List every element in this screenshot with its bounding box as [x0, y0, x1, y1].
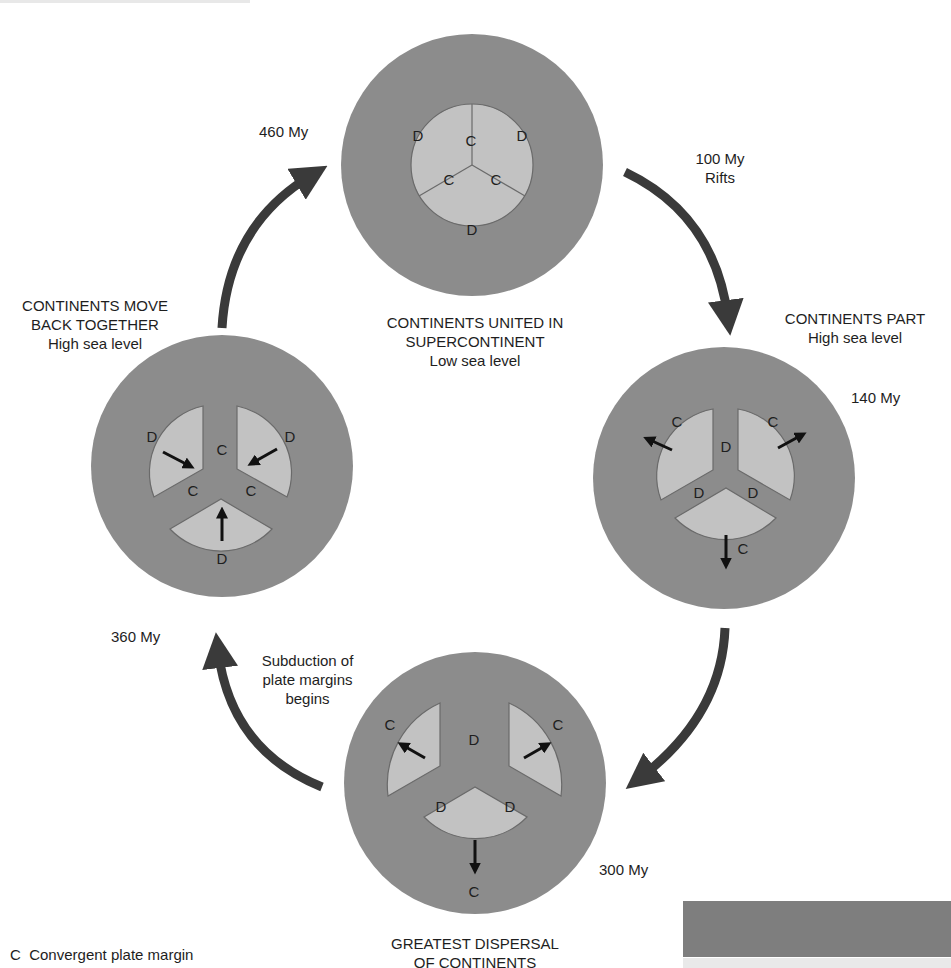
globe-part: C D C D D C [593, 347, 855, 609]
caption-line: High sea level [0, 334, 190, 353]
globe-united: D C D C C D [341, 34, 603, 296]
svg-text:C: C [246, 482, 257, 499]
caption-line: High sea level [750, 328, 951, 347]
legend-text: Convergent plate margin [29, 946, 193, 963]
transition-line: Subduction of [245, 651, 370, 670]
globe-together: D C D C C D [91, 335, 353, 597]
transition-label-rifts: 100 My Rifts [680, 149, 760, 187]
svg-text:D: D [436, 798, 447, 815]
legend-item-convergent: C Convergent plate margin [10, 945, 193, 964]
svg-text:C: C [217, 441, 228, 458]
svg-text:D: D [694, 484, 705, 501]
transition-line: Rifts [680, 168, 760, 187]
svg-text:D: D [217, 550, 228, 567]
svg-text:D: D [469, 731, 480, 748]
svg-text:C: C [553, 716, 564, 733]
caption-together: CONTINENTS MOVE BACK TOGETHER High sea l… [0, 296, 190, 353]
age-together: 360 My [111, 627, 160, 646]
cycle-arrow-together-to-united [222, 175, 312, 328]
svg-text:C: C [188, 482, 199, 499]
caption-dispersal: GREATEST DISPERSAL OF CONTINENTS [360, 934, 590, 968]
caption-line: GREATEST DISPERSAL [360, 934, 590, 953]
globe-dispersal: C D C D D C [344, 652, 606, 914]
age-part: 140 My [851, 388, 900, 407]
age-dispersal: 300 My [599, 860, 648, 879]
svg-text:D: D [285, 428, 296, 445]
transition-line: begins [245, 689, 370, 708]
caption-united: CONTINENTS UNITED IN SUPERCONTINENT Low … [340, 313, 610, 370]
svg-text:C: C [491, 171, 502, 188]
svg-text:D: D [147, 428, 158, 445]
transition-label-subduction: Subduction of plate margins begins [245, 651, 370, 708]
svg-text:C: C [385, 716, 396, 733]
svg-text:D: D [721, 438, 732, 455]
caption-line: Low sea level [340, 351, 610, 370]
cycle-arrow-united-to-part [625, 172, 728, 318]
svg-text:D: D [413, 127, 424, 144]
svg-text:D: D [505, 798, 516, 815]
age-united: 460 My [259, 122, 308, 141]
caption-line: CONTINENTS PART [750, 309, 951, 328]
legend-symbol: C [10, 946, 21, 963]
caption-line: SUPERCONTINENT [340, 332, 610, 351]
cycle-arrow-part-to-dispersal [640, 628, 725, 778]
svg-text:C: C [469, 883, 480, 900]
transition-line: plate margins [245, 670, 370, 689]
svg-text:D: D [467, 221, 478, 238]
svg-text:D: D [748, 484, 759, 501]
svg-text:C: C [444, 171, 455, 188]
transition-line: 100 My [680, 149, 760, 168]
caption-line: OF CONTINENTS [360, 953, 590, 968]
supercontinent-cycle-diagram: D C D C C D C D C D D C [0, 0, 951, 968]
svg-text:D: D [517, 127, 528, 144]
caption-line: CONTINENTS UNITED IN [340, 313, 610, 332]
legend-swatch-ocean [683, 901, 951, 957]
svg-text:C: C [768, 413, 779, 430]
legend-swatch-continent [683, 958, 951, 968]
svg-text:C: C [672, 413, 683, 430]
caption-line: CONTINENTS MOVE [0, 296, 190, 315]
svg-text:C: C [466, 132, 477, 149]
caption-line: BACK TOGETHER [0, 315, 190, 334]
svg-text:C: C [738, 540, 749, 557]
caption-part: CONTINENTS PART High sea level [750, 309, 951, 347]
